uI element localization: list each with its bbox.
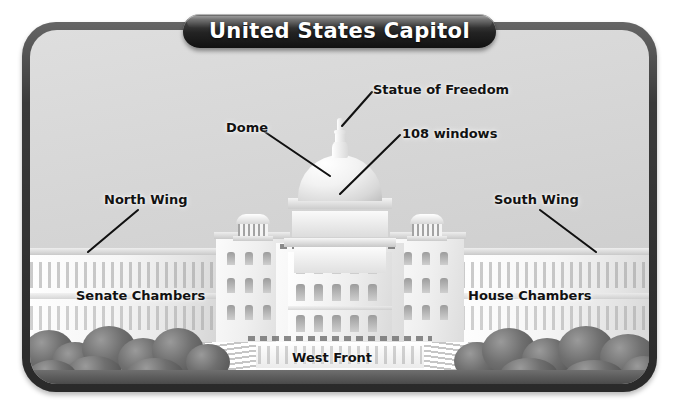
label-senate-chambers: Senate Chambers <box>76 288 205 303</box>
capitol-illustration: Statue of Freedom Dome 108 windows North… <box>30 30 649 384</box>
leader-108-windows <box>340 135 400 194</box>
title-banner: United States Capitol <box>183 14 496 48</box>
label-statue-of-freedom: Statue of Freedom <box>373 82 509 97</box>
label-dome: Dome <box>226 120 268 135</box>
leader-lines <box>30 30 649 384</box>
diagram-canvas: Statue of Freedom Dome 108 windows North… <box>0 0 679 413</box>
leader-north-wing <box>88 210 138 252</box>
label-south-wing: South Wing <box>494 192 579 207</box>
label-west-front: West Front <box>292 350 372 365</box>
page-title: United States Capitol <box>183 14 496 48</box>
leader-dome <box>262 130 330 176</box>
label-house-chambers: House Chambers <box>468 288 592 303</box>
leader-statue-of-freedom <box>342 92 372 126</box>
label-north-wing: North Wing <box>104 192 188 207</box>
leader-south-wing <box>540 210 596 252</box>
label-108-windows: 108 windows <box>402 126 497 141</box>
